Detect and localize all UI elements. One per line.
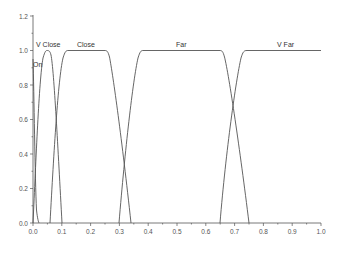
x-tick-label: 0.6 <box>201 228 210 235</box>
x-tick-label: 0.4 <box>144 228 153 235</box>
curve-far <box>119 51 249 224</box>
y-tick-label: 1.2 <box>19 13 28 20</box>
y-tick-label: 0.2 <box>19 185 28 192</box>
x-tick-label: 0.5 <box>172 228 181 235</box>
y-tick-label: 0.4 <box>19 151 28 158</box>
x-tick-label: 0.0 <box>28 228 37 235</box>
series-curves <box>33 51 321 224</box>
x-tick-label: 0.1 <box>57 228 66 235</box>
label-v-close: V Close <box>36 41 61 48</box>
membership-function-chart: 0.0 0.2 0.4 0.6 0.8 1.0 1.2 0.0 0.1 0.2 … <box>0 0 350 255</box>
x-tick-label: 0.2 <box>86 228 95 235</box>
label-close: Close <box>77 41 95 48</box>
y-tick-label: 0.8 <box>19 82 28 89</box>
y-tick-label: 0.6 <box>19 116 28 123</box>
x-ticks: 0.0 0.1 0.2 0.3 0.4 0.5 0.6 0.7 0.8 0.9 … <box>28 223 325 235</box>
x-tick-label: 1.0 <box>316 228 325 235</box>
curve-close <box>50 51 131 224</box>
x-tick-label: 0.8 <box>259 228 268 235</box>
label-v-far: V Far <box>277 41 295 48</box>
series-labels: V Close On Close Far V Far <box>33 41 295 68</box>
x-tick-label: 0.7 <box>230 228 239 235</box>
y-ticks: 0.0 0.2 0.4 0.6 0.8 1.0 1.2 <box>19 13 33 227</box>
curve-v-close <box>33 51 62 224</box>
label-on: On <box>33 61 42 68</box>
y-tick-label: 0.0 <box>19 220 28 227</box>
curve-v-far <box>220 51 321 224</box>
y-tick-label: 1.0 <box>19 47 28 54</box>
x-tick-label: 0.9 <box>288 228 297 235</box>
label-far: Far <box>176 41 187 48</box>
x-tick-label: 0.3 <box>115 228 124 235</box>
